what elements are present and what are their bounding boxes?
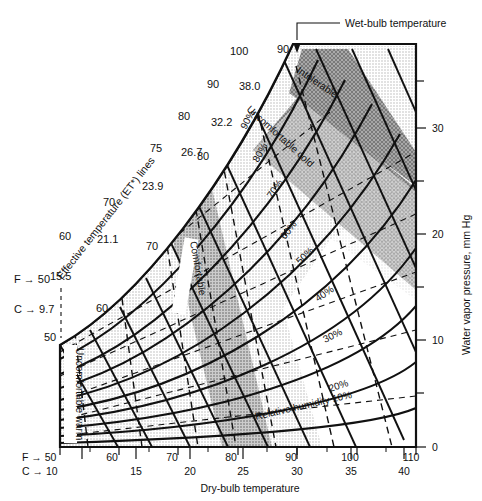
et-label-c-32: 32.2 — [211, 116, 232, 128]
x-axis-title: Dry-bulb temperature — [200, 482, 299, 494]
et-label-c-38: 38.0 — [239, 80, 260, 92]
y-tick-20: 20 — [432, 228, 444, 240]
x-tick-f-110: 110 — [403, 451, 420, 463]
et-pointer-f-label: F → 50 — [14, 273, 50, 285]
y-axis-title: Water vapor pressure, mm Hg — [460, 215, 472, 355]
y-tick-10: 10 — [432, 334, 444, 346]
y-tick-0: 0 — [432, 441, 438, 453]
x-tick-f-100: 100 — [341, 451, 359, 463]
wet-bulb-label-90: 90 — [277, 43, 289, 55]
x-tick-f-90: 90 — [285, 451, 297, 463]
x-tick-f-70: 70 — [166, 451, 178, 463]
psychrometric-chart: F → 50 C → 10 60 70 80 90 100 110 15 20 … — [0, 0, 482, 501]
et-pointer-c-label: C → 9.7 — [14, 303, 54, 315]
x-tick-f-60: 60 — [106, 451, 118, 463]
et-label-f-75: 75 — [150, 142, 162, 154]
et-label-f-90: 90 — [207, 78, 219, 90]
wet-bulb-label-80: 80 — [197, 150, 209, 162]
x-tick-c-25: 25 — [237, 465, 249, 477]
x-axis-c-prefix: C → 10 — [22, 465, 58, 477]
et-label-c-15: 15.5 — [50, 270, 71, 282]
y-tick-30: 30 — [432, 122, 444, 134]
et-label-c-21: 21.1 — [97, 233, 118, 245]
wet-bulb-callout-label: Wet-bulb temperature — [345, 17, 447, 29]
x-tick-c-30: 30 — [291, 465, 303, 477]
x-tick-c-35: 35 — [345, 465, 357, 477]
zone-label-uncomfortable-warm: Uncomfortable warm — [74, 348, 85, 440]
zone-label-uncomfortable-warm-group: Uncomfortable warm — [64, 345, 85, 443]
et-label-f-60: 60 — [59, 230, 71, 242]
x-tick-c-15: 15 — [130, 465, 142, 477]
et-label-f-50: 50 — [44, 331, 56, 343]
x-axis-f-prefix: F → 50 — [22, 451, 57, 463]
et-label-c-23: 23.9 — [142, 180, 163, 192]
wet-bulb-label-60: 60 — [96, 302, 108, 314]
x-tick-f-80: 80 — [225, 451, 237, 463]
et-label-f-70: 70 — [103, 196, 115, 208]
wet-bulb-label-70: 70 — [146, 240, 158, 252]
x-tick-c-40: 40 — [398, 465, 410, 477]
et-label-f-100: 100 — [230, 45, 248, 57]
x-tick-c-20: 20 — [184, 465, 196, 477]
et-label-f-80: 80 — [178, 110, 190, 122]
chart-canvas: F → 50 C → 10 60 70 80 90 100 110 15 20 … — [0, 0, 482, 501]
